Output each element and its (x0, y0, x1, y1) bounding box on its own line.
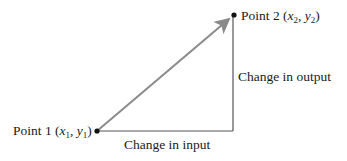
point-1-label: Point 1 (x1, y1) (13, 124, 92, 138)
x-subscript: 1 (66, 130, 71, 140)
x-subscript: 2 (294, 15, 299, 25)
y-subscript: 1 (83, 130, 88, 140)
slope-arrow (97, 19, 229, 131)
point-2-dot (231, 12, 236, 17)
change-in-output-label: Change in output (238, 70, 331, 84)
point-1-name: Point 1 (13, 123, 52, 138)
y-subscript: 2 (311, 15, 316, 25)
point-2-name: Point 2 (241, 8, 280, 23)
point-1-dot (94, 128, 99, 133)
point-2-label: Point 2 (x2, y2) (241, 9, 320, 23)
change-in-input-label: Change in input (124, 138, 210, 152)
